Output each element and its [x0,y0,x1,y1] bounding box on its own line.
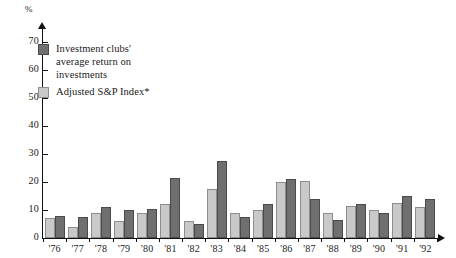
bar [425,199,435,238]
x-axis-tick-mark [228,238,229,242]
y-axis-unit-label: % [25,4,33,14]
x-axis-tick-label: '92 [410,243,440,254]
bar [114,221,124,238]
x-axis-tick-mark [344,238,345,242]
legend-swatch-light [38,87,49,98]
x-axis-tick-mark [252,238,253,242]
bar [240,217,250,238]
x-axis-tick-mark [89,238,90,242]
y-axis-tick-label: 30 [11,147,39,158]
bar-group [415,28,435,238]
bar [276,182,286,238]
y-axis-tick-label: 10 [11,203,39,214]
bar [194,224,204,238]
bar [300,181,310,238]
bar [137,213,147,238]
bar [124,210,134,238]
chart-legend: Investment clubs' average return on inve… [38,42,150,102]
x-axis-tick-mark [367,238,368,242]
bar-group [160,28,180,238]
x-axis-tick-mark [321,238,322,242]
bar-group [300,28,320,238]
x-axis-tick-mark [136,238,137,242]
bar-group [323,28,343,238]
bar-chart: % 010203040506070 '76'77'78'79'80'81'82'… [0,0,456,258]
bar-group [253,28,273,238]
y-axis-tick-label: 40 [11,119,39,130]
y-axis-tick: 10 [0,210,48,211]
x-axis-tick-mark [391,238,392,242]
bar [286,179,296,238]
bar [230,213,240,238]
x-axis-tick-mark [113,238,114,242]
bar [207,189,217,238]
x-axis-tick-mark [159,238,160,242]
y-axis-tick-label: 60 [11,63,39,74]
x-axis-tick-mark [43,238,44,242]
bar [147,209,157,238]
bar [415,207,425,238]
x-axis-line [42,238,438,239]
bar [323,213,333,238]
bar [45,218,55,238]
y-axis-tick-label: 20 [11,175,39,186]
bar [184,221,194,238]
bar-group [230,28,250,238]
y-axis-tick-label: 70 [11,35,39,46]
legend-item: Investment clubs' average return on inve… [38,42,150,81]
y-axis-tick-label: 50 [11,91,39,102]
bar [91,213,101,238]
bar-group [346,28,366,238]
y-axis-tick: 40 [0,126,48,127]
x-axis-tick-mark [182,238,183,242]
legend-swatch-dark [38,44,49,55]
bar [160,204,170,238]
bar-group [184,28,204,238]
y-axis-tick: 20 [0,182,48,183]
x-axis-tick-mark [205,238,206,242]
bar [379,213,389,238]
legend-item: Adjusted S&P Index* [38,85,150,98]
bar-group [392,28,412,238]
bar [78,217,88,238]
x-axis-arrow-icon [438,234,445,242]
legend-label: Investment clubs' average return on inve… [56,42,150,81]
bar [333,220,343,238]
bar-group [369,28,389,238]
bar-group [276,28,296,238]
bar [217,161,227,238]
x-axis-tick-mark [437,238,438,242]
y-axis-tick: 0 [0,238,48,239]
x-axis-tick-mark [66,238,67,242]
bar [68,227,78,238]
bar [55,216,65,238]
legend-label: Adjusted S&P Index* [56,85,150,98]
x-axis-tick-mark [414,238,415,242]
bar [346,206,356,238]
bar [101,207,111,238]
bar [170,178,180,238]
bar [356,204,366,238]
bar [402,196,412,238]
bar-group [207,28,227,238]
y-axis-tick: 30 [0,154,48,155]
bar [253,210,263,238]
x-axis-tick-mark [298,238,299,242]
bar [263,204,273,238]
bar [369,210,379,238]
bar [310,199,320,238]
x-axis-tick-mark [275,238,276,242]
y-axis-tick-label: 0 [11,231,39,242]
bar [392,203,402,238]
